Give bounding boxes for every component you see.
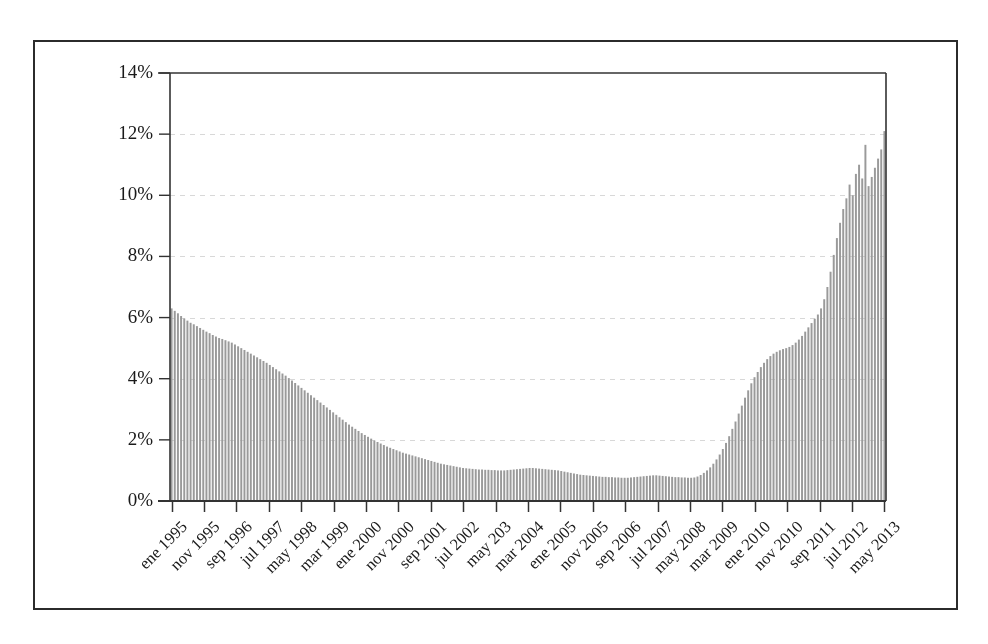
y-axis-tick-label: 8% [128, 244, 153, 266]
y-axis-tick-label: 4% [128, 367, 153, 389]
y-axis-tick-label: 10% [118, 183, 153, 205]
y-axis-tick-label: 12% [118, 122, 153, 144]
y-axis-tick-label: 0% [128, 489, 153, 511]
y-axis-tick-label: 6% [128, 306, 153, 328]
y-axis-tick-label: 2% [128, 428, 153, 450]
y-axis-tick-label: 14% [118, 61, 153, 83]
